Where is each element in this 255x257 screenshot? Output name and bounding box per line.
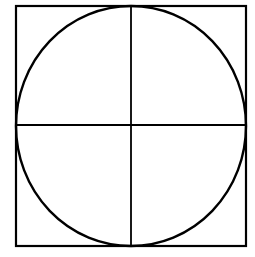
- circle-in-square-diagram: [0, 0, 255, 257]
